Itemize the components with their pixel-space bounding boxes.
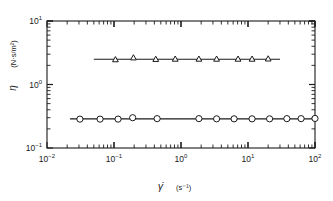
data-point-circle bbox=[312, 115, 318, 121]
x-axis-ticks bbox=[47, 21, 315, 148]
x-axis-title: γ̇ (s⁻¹) bbox=[158, 181, 192, 192]
data-point-circle bbox=[214, 116, 220, 122]
data-point-circle bbox=[284, 116, 290, 122]
data-point-circle bbox=[154, 116, 160, 122]
data-point-circle bbox=[115, 116, 121, 122]
data-point-circle bbox=[266, 116, 272, 122]
y-axis-title-unit: (N·s/m²) bbox=[9, 40, 18, 68]
data-point-circle bbox=[130, 115, 136, 121]
data-point-circle bbox=[97, 116, 103, 122]
x-tick-label: 101 bbox=[242, 153, 255, 164]
y-axis-ticks bbox=[47, 21, 315, 148]
data-point-circle bbox=[249, 116, 255, 122]
y-axis-title: η (N·s/m²) bbox=[7, 40, 18, 91]
data-point-triangle bbox=[249, 56, 255, 61]
data-point-triangle bbox=[265, 56, 271, 61]
series-lower-series bbox=[70, 115, 318, 123]
series-upper-series bbox=[94, 55, 280, 62]
x-axis-tick-labels: 10−210−1100101102 bbox=[39, 153, 322, 164]
data-point-triangle bbox=[214, 56, 220, 61]
data-point-circle bbox=[196, 116, 202, 122]
data-series-layer bbox=[70, 55, 318, 123]
x-tick-label: 10−2 bbox=[39, 153, 56, 164]
x-tick-label: 102 bbox=[309, 153, 322, 164]
chart-figure: 10−210−1100101102 10−1100101 γ̇ (s⁻¹) η … bbox=[0, 0, 333, 201]
data-point-triangle bbox=[196, 56, 202, 61]
data-point-triangle bbox=[235, 56, 241, 61]
data-point-circle bbox=[77, 116, 83, 122]
x-tick-label: 10−1 bbox=[106, 153, 123, 164]
data-point-triangle bbox=[172, 56, 178, 61]
y-axis-tick-labels: 10−1100101 bbox=[26, 15, 43, 153]
plot-frame bbox=[47, 21, 315, 148]
data-point-circle bbox=[298, 116, 304, 122]
x-axis-title-symbol: γ̇ bbox=[158, 181, 164, 192]
y-tick-label: 10−1 bbox=[26, 142, 43, 153]
x-axis-title-unit: (s⁻¹) bbox=[176, 183, 192, 192]
y-axis-title-symbol: η bbox=[7, 85, 18, 91]
data-point-circle bbox=[231, 116, 237, 122]
log-log-plot: 10−210−1100101102 10−1100101 γ̇ (s⁻¹) η … bbox=[0, 0, 333, 201]
y-tick-label: 100 bbox=[29, 79, 42, 90]
x-tick-label: 100 bbox=[175, 153, 188, 164]
y-tick-label: 101 bbox=[29, 15, 42, 26]
data-point-triangle bbox=[131, 55, 137, 60]
